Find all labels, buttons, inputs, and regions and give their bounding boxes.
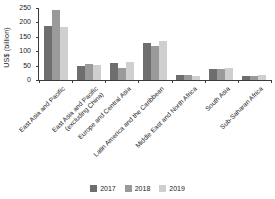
x-axis-label-line1: East Asia and Pacific <box>17 85 65 133</box>
bar <box>44 26 52 80</box>
x-tick-2 <box>105 80 106 83</box>
x-tick-7 <box>271 80 272 83</box>
bar <box>159 41 167 80</box>
x-axis-label-line1: Latin America and the Caribbean <box>92 85 165 158</box>
x-axis-label-line1: Europe and Central Asia <box>76 85 131 140</box>
x-tick-4 <box>172 80 173 83</box>
y-axis-title-text: US$ (billion) <box>2 27 11 67</box>
bars-layer <box>39 8 271 80</box>
x-tick-1 <box>72 80 73 83</box>
bar <box>93 65 101 80</box>
bar <box>250 76 258 80</box>
y-tick-label-0: 0 <box>27 76 31 83</box>
bar-group <box>39 8 72 80</box>
legend-swatch-icon <box>90 185 97 192</box>
bar <box>151 46 159 80</box>
x-tick-0 <box>39 80 40 83</box>
bar <box>209 69 217 80</box>
bar <box>192 76 200 80</box>
bar <box>258 75 266 80</box>
plot-area: 050100150200250 <box>38 8 271 81</box>
x-axis-label: Sub-Saharan Africa <box>219 85 265 131</box>
bar-group <box>105 8 138 80</box>
bar <box>217 69 225 80</box>
bar <box>85 64 93 80</box>
bar <box>60 27 68 80</box>
y-tick-label-150: 150 <box>19 33 31 40</box>
x-axis-label-line1: Middle East and North Africa <box>134 85 198 149</box>
bar <box>143 43 151 80</box>
legend-label: 2018 <box>135 185 151 192</box>
y-tick-label-250: 250 <box>19 4 31 11</box>
x-axis-label: South Asia <box>204 85 232 113</box>
x-axis-label: East Asia and Pacific <box>17 85 66 134</box>
legend-item-2019[interactable]: 2019 <box>159 185 185 192</box>
bar <box>52 10 60 80</box>
legend-label: 2019 <box>169 185 185 192</box>
x-axis-label-line2: (excluding China) <box>56 90 105 139</box>
x-axis-label-line1: East Asia and Pacific <box>50 85 98 133</box>
x-tick-5 <box>205 80 206 83</box>
bar <box>77 66 85 80</box>
legend-item-2017[interactable]: 2017 <box>90 185 116 192</box>
x-axis-label: Middle East and North Africa <box>134 85 198 149</box>
x-axis-label: East Asia and Pacific(excluding China) <box>50 85 104 139</box>
bar-group <box>205 8 238 80</box>
y-tick-label-200: 200 <box>19 18 31 25</box>
x-tick-3 <box>138 80 139 83</box>
bar <box>110 63 118 80</box>
x-axis-label-line1: Sub-Saharan Africa <box>219 85 264 130</box>
bar <box>176 75 184 80</box>
bar-group <box>238 8 271 80</box>
bar-group <box>72 8 105 80</box>
chart-legend: 201720182019 <box>0 185 275 192</box>
x-axis-label: Latin America and the Caribbean <box>92 85 165 158</box>
legend-label: 2017 <box>100 185 116 192</box>
y-axis-title: US$ (billion) <box>0 14 13 80</box>
x-axis-label-line1: South Asia <box>204 85 231 112</box>
y-tick-label-100: 100 <box>19 47 31 54</box>
x-axis-label: Europe and Central Asia <box>76 85 132 141</box>
bar <box>242 76 250 80</box>
legend-item-2018[interactable]: 2018 <box>125 185 151 192</box>
bar <box>118 68 126 80</box>
bar <box>126 62 134 80</box>
y-tick-label-50: 50 <box>23 62 31 69</box>
legend-swatch-icon <box>125 185 132 192</box>
x-tick-6 <box>238 80 239 83</box>
bar-chart-figure: US$ (billion) 050100150200250 East Asia … <box>0 0 275 199</box>
bar-group <box>172 8 205 80</box>
bar-group <box>138 8 171 80</box>
bar <box>225 68 233 80</box>
bar <box>184 75 192 80</box>
legend-swatch-icon <box>159 185 166 192</box>
